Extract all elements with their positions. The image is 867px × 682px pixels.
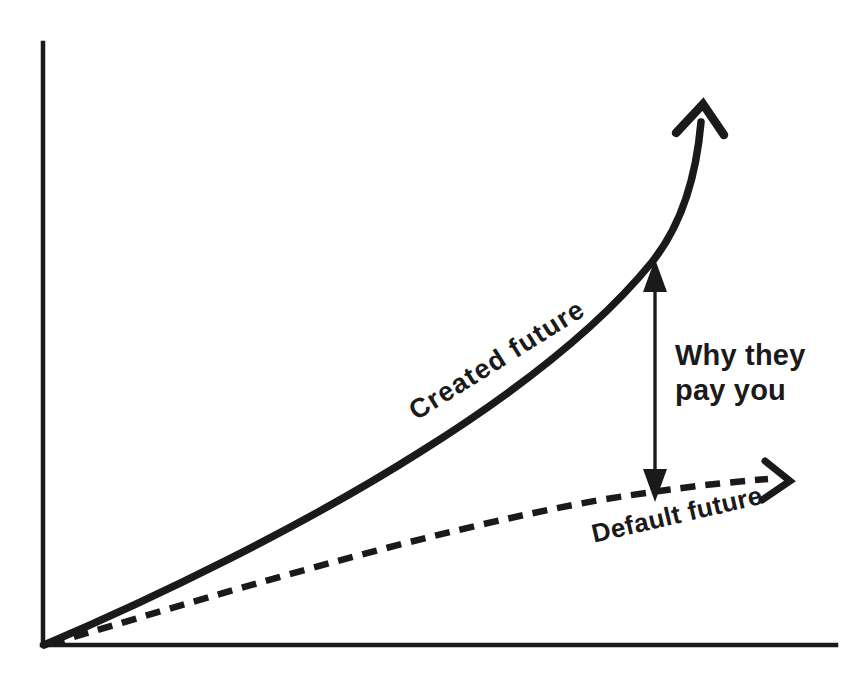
value-gap-arrow (643, 259, 667, 502)
why-they-pay-you-label: Why they pay you (675, 338, 806, 409)
diagram-canvas: Created future Default future Why they p… (0, 0, 867, 682)
why-they-pay-you-line-2: pay you (675, 373, 806, 408)
default-future-line (50, 461, 790, 644)
created-future-path (44, 122, 701, 645)
gap-arrow-head-down-icon (643, 469, 667, 502)
why-they-pay-you-line-1: Why they (675, 338, 806, 373)
created-future-curve (44, 104, 724, 645)
